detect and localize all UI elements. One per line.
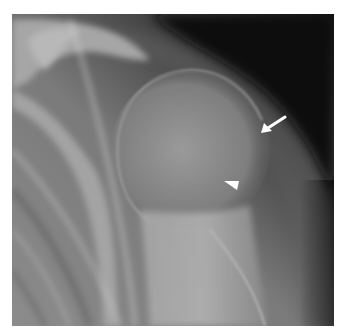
shoulder-radiograph xyxy=(12,14,334,326)
radiograph-canvas xyxy=(12,14,334,326)
humeral-shaft xyxy=(140,205,268,326)
right-edge-shadow xyxy=(300,180,334,326)
